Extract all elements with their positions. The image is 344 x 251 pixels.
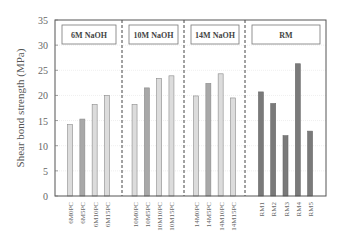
y-tick-label: 30 [38, 40, 48, 51]
y-tick-label: 15 [38, 116, 48, 127]
group-label: 6M NaOH [71, 31, 108, 40]
group-label: 10M NaOH [134, 31, 175, 40]
y-tick-label: 5 [43, 166, 48, 177]
y-tick-label: 20 [38, 90, 48, 101]
y-tick-label: 35 [38, 15, 48, 26]
x-tick-label: 10M10PC [156, 202, 164, 231]
x-tick-label: 6M15PC [104, 202, 112, 228]
x-tick-label: RM3 [283, 202, 291, 217]
x-tick-label: 6M5PC [79, 202, 87, 224]
group-label-boxes: 6M NaOH10M NaOH14M NaOHRM [62, 25, 320, 44]
x-tick-label: 6M0PC [67, 202, 75, 224]
bar-14M5PC [206, 83, 211, 196]
bar-RM4 [295, 64, 300, 196]
bar-RM2 [271, 103, 276, 196]
bar-10M15PC [169, 76, 174, 196]
group-label: RM [279, 31, 293, 40]
y-tick-label: 25 [38, 65, 48, 76]
x-tick-label: RM1 [258, 202, 266, 217]
bar-RM1 [258, 92, 263, 196]
y-axis-label: Shear bond strength (MPa) [14, 48, 27, 167]
y-tick-label: 10 [38, 141, 48, 152]
bar-6M5PC [80, 119, 85, 196]
x-tick-label: 14M0PC [193, 202, 201, 228]
x-tick-label: RM5 [307, 202, 315, 217]
bar-10M10PC [157, 78, 162, 196]
x-tick-label: 14M5PC [205, 202, 213, 228]
x-tick-label: 10M5PC [144, 202, 152, 228]
x-tick-label: 14M10PC [218, 202, 226, 231]
x-tick-label: RM4 [295, 202, 303, 217]
bar-6M0PC [68, 125, 73, 196]
y-tick-label: 0 [43, 191, 48, 202]
group-dividers [122, 20, 245, 196]
group-label: 14M NaOH [195, 31, 236, 40]
x-tick-label: 10M0PC [132, 202, 140, 228]
bar-10M0PC [132, 104, 137, 196]
x-tick-label: 10M15PC [168, 202, 176, 231]
x-tick-label: 14M15PC [230, 202, 238, 231]
bar-6M15PC [104, 95, 109, 196]
bars [68, 64, 313, 196]
shear-bond-strength-chart: 6M NaOH10M NaOH14M NaOHRM 05101520253035… [0, 0, 344, 251]
x-tick-label: RM2 [270, 202, 278, 217]
x-axis-tick-labels: 6M0PC6M5PC6M10PC6M15PC10M0PC10M5PC10M10P… [67, 202, 315, 231]
bar-6M10PC [92, 104, 97, 196]
bar-RM5 [308, 131, 313, 196]
x-tick-label: 6M10PC [92, 202, 100, 228]
bar-14M0PC [194, 96, 199, 196]
bar-10M5PC [144, 88, 149, 196]
bar-14M10PC [218, 74, 223, 196]
bar-14M15PC [230, 98, 235, 196]
bar-RM3 [283, 136, 288, 196]
